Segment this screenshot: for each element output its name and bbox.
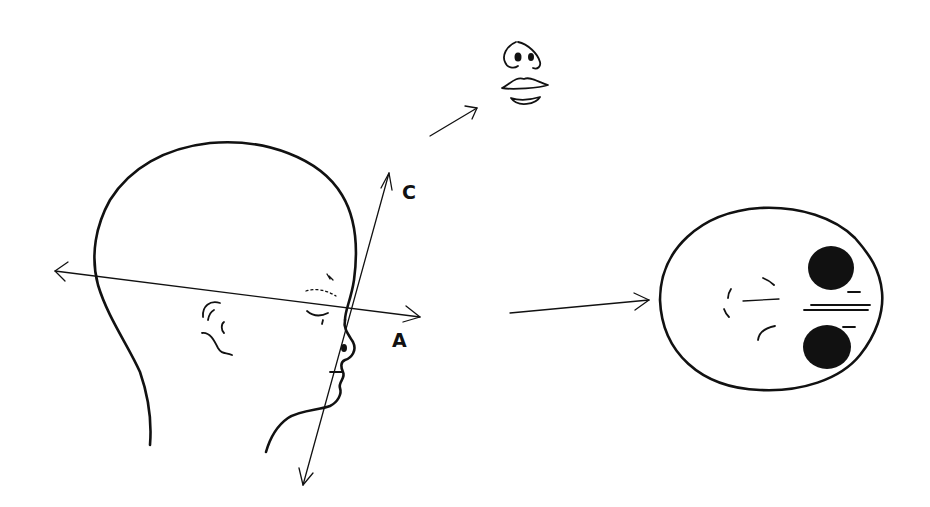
face-profile — [266, 320, 354, 452]
arrow-to-axial-view — [510, 293, 649, 313]
lower-orbit — [803, 325, 851, 369]
axis-c-label: C — [402, 183, 416, 202]
upper-orbit — [808, 246, 854, 290]
upper-lip — [502, 78, 548, 89]
arrowhead-icon — [465, 106, 477, 119]
arrowhead-right-icon — [403, 306, 420, 322]
ear-tragus — [222, 322, 224, 333]
ear-inner — [208, 310, 214, 320]
eye — [307, 311, 328, 315]
midline-mark — [743, 299, 779, 301]
axial-head-view — [660, 208, 882, 390]
ear — [203, 302, 220, 317]
nose-outline — [504, 42, 540, 69]
left-nostril — [515, 53, 522, 62]
axis-c-arrow — [299, 173, 392, 485]
brow-mark-upper — [763, 278, 774, 285]
eyelash-mark — [327, 274, 333, 280]
ear-lobe — [202, 333, 232, 355]
left-ear-mark-top — [728, 289, 731, 298]
lower-lip — [511, 97, 540, 104]
arrow-to-frontal-view — [430, 106, 477, 136]
eye-lower-mark — [322, 320, 323, 324]
right-nostril — [528, 53, 534, 61]
diagram-canvas — [0, 0, 930, 507]
lateral-head-profile — [94, 142, 355, 452]
head-outline — [94, 142, 355, 445]
left-ear-mark-bottom — [724, 309, 729, 317]
axis-a-label: A — [392, 331, 407, 350]
brow-mark-lower — [758, 326, 775, 340]
brow-dotted — [306, 290, 336, 296]
frontal-nose-mouth-view — [502, 42, 548, 104]
